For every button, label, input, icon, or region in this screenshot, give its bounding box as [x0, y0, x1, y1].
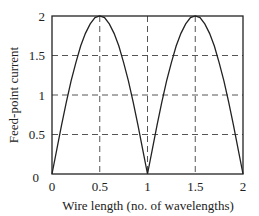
x-tick-label: 0.5 [92, 179, 108, 194]
y-axis-label: Feed-point current [6, 46, 21, 143]
y-tick-label: 2 [39, 9, 46, 24]
x-axis-label: Wire length (no. of wavelengths) [62, 198, 234, 213]
x-axis-ticks: 0 0.5 1 1.5 2 [49, 179, 247, 194]
grid [52, 16, 243, 174]
y-tick-label: 1.5 [29, 48, 45, 63]
x-tick-label: 1.5 [187, 179, 203, 194]
y-tick-label: 0 [33, 170, 40, 185]
y-axis-ticks: 2 1.5 1 0.5 0 [29, 9, 45, 185]
y-tick-label: 1 [39, 88, 46, 103]
chart: 2 1.5 1 0.5 0 0 0.5 1 1.5 2 Wire length … [0, 0, 259, 216]
x-tick-label: 2 [240, 179, 247, 194]
x-tick-label: 1 [144, 179, 151, 194]
y-tick-label: 0.5 [29, 127, 45, 142]
x-tick-label: 0 [49, 179, 56, 194]
